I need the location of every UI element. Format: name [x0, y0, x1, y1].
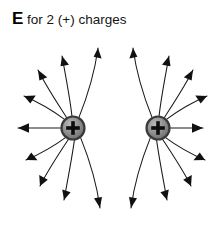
field-diagram-figure: E for 2 (+) charges	[0, 0, 221, 230]
arrowhead	[38, 70, 47, 81]
arrowhead	[183, 175, 192, 186]
arrowhead	[94, 197, 102, 208]
charge-positive-right	[147, 117, 170, 140]
arrowhead	[61, 56, 70, 66]
arrowhead	[194, 153, 206, 161]
field-line	[79, 48, 99, 119]
plus-icon-vertical	[156, 121, 160, 135]
arrowhead	[195, 96, 207, 104]
field-line-canvas	[0, 0, 221, 230]
field-line	[131, 137, 151, 208]
arrowhead	[39, 175, 48, 186]
arrowhead	[18, 123, 29, 133]
arrowhead	[94, 48, 102, 58]
charge-positive-left	[62, 117, 85, 140]
plus-icon-vertical	[71, 121, 75, 135]
arrowhead	[160, 189, 168, 200]
arrowhead	[192, 123, 203, 133]
arrowhead	[24, 96, 36, 104]
arrowhead	[26, 153, 38, 161]
field-line	[133, 48, 153, 119]
field-line	[81, 137, 101, 208]
arrowhead	[129, 197, 137, 208]
field-lines-left-charge	[18, 48, 100, 208]
arrowhead	[62, 189, 70, 200]
arrowhead	[129, 48, 137, 58]
arrowhead	[184, 70, 193, 81]
